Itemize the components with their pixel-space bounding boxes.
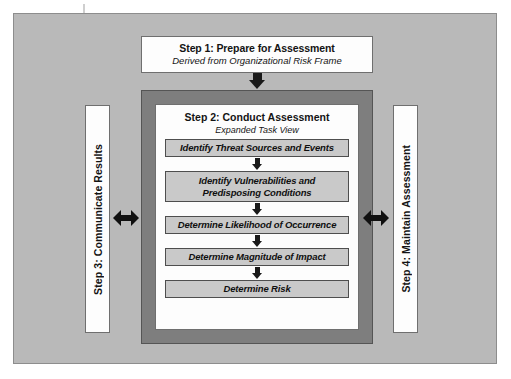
task-box-identify-threat-sources: Identify Threat Sources and Events [165, 139, 349, 157]
step2-subtitle: Expanded Task View [156, 124, 358, 136]
step3-title: Step 3: Communicate Results [92, 144, 104, 295]
step2-task-list: Identify Threat Sources and Events Ident… [165, 139, 349, 298]
bidirectional-arrow-right-icon [363, 210, 389, 226]
step2-conduct-assessment-box: Step 2: Conduct Assessment Expanded Task… [155, 104, 359, 330]
step1-title: Step 1: Prepare for Assessment [179, 42, 334, 55]
task-arrow-2-icon [165, 202, 349, 216]
task-arrow-1-icon [165, 157, 349, 171]
task-label: Determine Magnitude of Impact [188, 251, 325, 263]
step2-title: Step 2: Conduct Assessment [156, 111, 358, 124]
task-label-line2: Predisposing Conditions [203, 187, 312, 199]
task-box-identify-vulnerabilities: Identify Vulnerabilities and Predisposin… [165, 171, 349, 202]
task-arrow-3-icon [165, 234, 349, 248]
bidirectional-arrow-left-icon [113, 210, 139, 226]
task-box-determine-risk: Determine Risk [165, 280, 349, 298]
step1-prepare-for-assessment-box: Step 1: Prepare for Assessment Derived f… [141, 36, 373, 73]
task-label: Identify Threat Sources and Events [180, 142, 334, 154]
task-label: Determine Risk [223, 283, 290, 295]
step4-maintain-assessment-panel: Step 4: Maintain Assessment [393, 105, 418, 333]
task-box-determine-likelihood: Determine Likelihood of Occurrence [165, 216, 349, 234]
task-label: Identify Vulnerabilities and [199, 175, 316, 187]
task-label: Determine Likelihood of Occurrence [178, 219, 337, 231]
step4-title: Step 4: Maintain Assessment [400, 145, 412, 293]
task-arrow-4-icon [165, 266, 349, 280]
step1-subtitle: Derived from Organizational Risk Frame [172, 55, 341, 67]
step3-communicate-results-panel: Step 3: Communicate Results [85, 105, 110, 333]
task-box-determine-magnitude: Determine Magnitude of Impact [165, 248, 349, 266]
risk-assessment-diagram: Step 1: Prepare for Assessment Derived f… [0, 0, 511, 379]
